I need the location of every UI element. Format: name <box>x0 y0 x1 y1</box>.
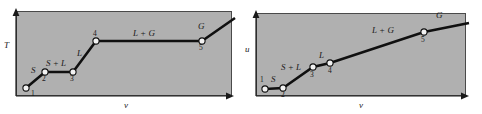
left-state-point-4 <box>93 38 99 44</box>
left-x-axis-label: v <box>124 100 128 110</box>
left-region-label-solid: S <box>31 65 36 75</box>
right-chart-panel: 1 2 3 4 5 S S + L L L + G G u v <box>241 0 482 114</box>
left-y-axis-label: T <box>4 40 10 50</box>
left-state-label-3: 3 <box>70 74 74 83</box>
left-region-label-solid-liquid: S + L <box>46 58 66 68</box>
right-state-label-1: 1 <box>260 75 264 84</box>
right-region-label-solid: S <box>271 74 276 84</box>
left-state-point-1 <box>23 85 29 91</box>
right-state-label-2: 2 <box>281 90 285 99</box>
two-panel-thermodynamic-diagram: 1 2 3 4 5 S S + L L L + G G T v <box>0 0 482 114</box>
right-region-label-gas: G <box>436 10 443 20</box>
left-chart-panel: 1 2 3 4 5 S S + L L L + G G T v <box>0 0 241 114</box>
left-state-label-1: 1 <box>31 89 35 98</box>
right-region-label-liquid: L <box>318 50 324 60</box>
right-y-axis-label: u <box>245 44 250 54</box>
left-state-label-2: 2 <box>42 74 46 83</box>
right-region-label-solid-liquid: S + L <box>281 62 301 72</box>
right-state-label-4: 4 <box>328 66 332 75</box>
left-state-label-5: 5 <box>199 43 203 52</box>
right-state-point-1 <box>262 86 268 92</box>
right-region-label-liquid-gas: L + G <box>371 25 394 35</box>
left-region-label-gas: G <box>198 21 205 31</box>
left-region-label-liquid-gas: L + G <box>132 28 155 38</box>
right-x-axis-label: v <box>359 100 363 110</box>
right-state-label-5: 5 <box>421 35 425 44</box>
left-state-label-4: 4 <box>93 29 97 38</box>
right-state-label-3: 3 <box>310 70 314 79</box>
left-region-label-liquid: L <box>76 48 82 58</box>
